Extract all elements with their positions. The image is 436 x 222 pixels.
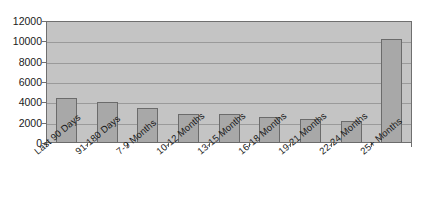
x-axis-labels: Last 90 Days91-180 Days7-9 Months10-12 M… xyxy=(0,148,436,222)
y-tick-label: 4000 xyxy=(0,96,42,108)
y-tick-label: 12000 xyxy=(0,15,42,27)
x-tick-mark xyxy=(411,143,412,147)
y-tick-label: 6000 xyxy=(0,76,42,88)
y-tick-label: 10000 xyxy=(0,35,42,47)
y-axis: 020004000600080001000012000 xyxy=(0,14,42,150)
y-tick-label: 8000 xyxy=(0,56,42,68)
bar-chart: 020004000600080001000012000 Last 90 Days… xyxy=(0,0,436,222)
y-tick-label: 2000 xyxy=(0,117,42,129)
